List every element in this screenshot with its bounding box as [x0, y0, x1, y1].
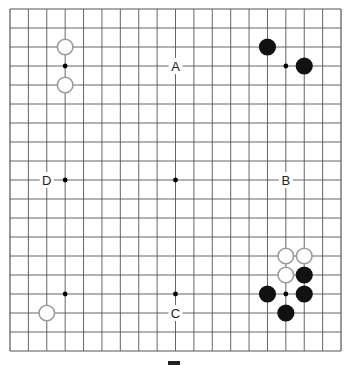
white-stone[interactable] — [57, 39, 73, 55]
label-d[interactable]: D — [40, 172, 54, 188]
black-stone[interactable] — [296, 266, 313, 283]
star-point-icon — [283, 292, 288, 297]
black-stone[interactable] — [296, 57, 313, 74]
white-stone[interactable] — [57, 77, 73, 93]
go-board-grid[interactable]: ABCD — [0, 0, 351, 365]
black-stone[interactable] — [259, 285, 276, 302]
star-point-icon — [63, 178, 68, 183]
label-text: B — [282, 173, 291, 188]
star-point-icon — [283, 64, 288, 69]
star-point-icon — [63, 292, 68, 297]
label-text: A — [171, 59, 180, 74]
label-c[interactable]: C — [169, 305, 183, 321]
position-labels: ABCD — [40, 58, 293, 321]
black-stone[interactable] — [259, 38, 276, 55]
white-stone[interactable] — [296, 248, 312, 264]
label-b[interactable]: B — [279, 172, 293, 188]
black-stone[interactable] — [296, 285, 313, 302]
white-stone[interactable] — [278, 248, 294, 264]
label-text: C — [171, 306, 180, 321]
turn-indicator — [168, 361, 180, 365]
black-stone[interactable] — [277, 304, 294, 321]
label-text: D — [42, 173, 51, 188]
label-a[interactable]: A — [169, 58, 183, 74]
white-stone[interactable] — [278, 267, 294, 283]
star-point-icon — [173, 178, 178, 183]
go-board[interactable]: ABCD — [0, 0, 351, 365]
star-point-icon — [63, 64, 68, 69]
star-point-icon — [173, 292, 178, 297]
white-stone[interactable] — [39, 305, 55, 321]
